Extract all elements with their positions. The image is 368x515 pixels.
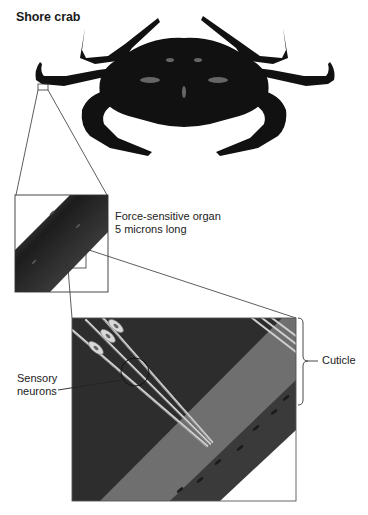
- leg-segment-panel: [15, 195, 108, 292]
- cuticle-label: Cuticle: [322, 354, 356, 367]
- organ-closeup-panel: [72, 317, 296, 501]
- sensory-neurons-label: Sensory neurons: [17, 372, 57, 398]
- organ-label: Force-sensitive organ 5 microns long: [115, 210, 221, 236]
- cuticle-brace: [298, 318, 308, 405]
- sensory-label-line1: Sensory: [17, 372, 57, 385]
- organ-label-line1: Force-sensitive organ: [115, 210, 221, 223]
- organ-label-line2: 5 microns long: [115, 223, 221, 236]
- sensory-label-line2: neurons: [17, 385, 57, 398]
- crab-illustration: [36, 16, 335, 156]
- diagram-canvas: [0, 0, 368, 515]
